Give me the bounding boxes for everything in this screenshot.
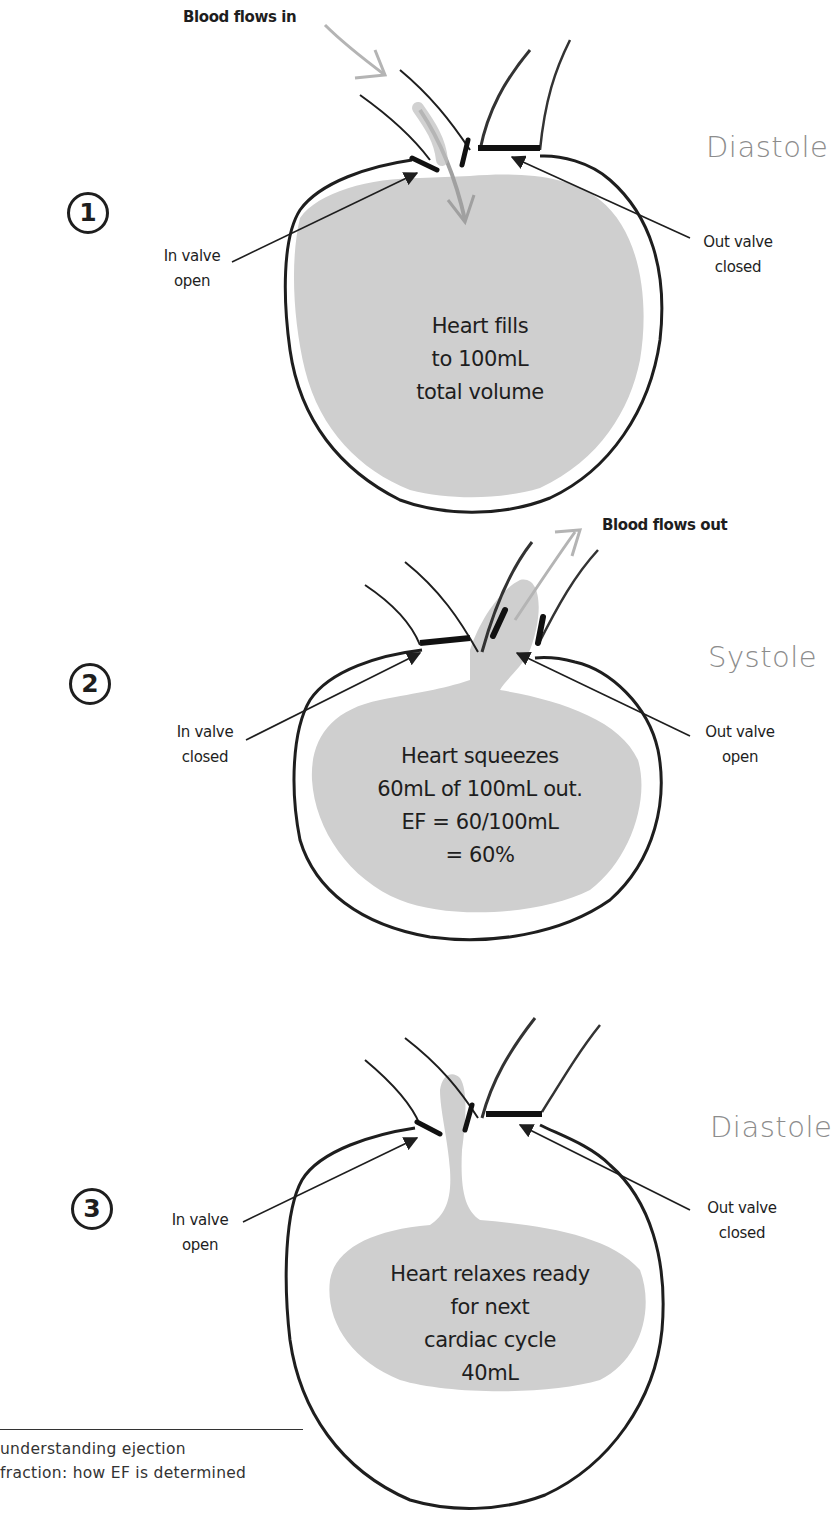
flow-out-label: Blood flows out [602, 516, 727, 534]
in-valve-label-3: In valve open [160, 1208, 240, 1258]
out-valve-label-3: Out valve closed [692, 1196, 792, 1246]
step-badge-2: 2 [69, 663, 111, 705]
out-valve-flap-left [465, 1105, 472, 1130]
out-valve-label-2: Out valve open [690, 720, 790, 770]
figure-caption: understanding ejection fraction: how EF … [0, 1437, 246, 1485]
phase-label-1: Diastole [706, 130, 828, 164]
in-valve-label-1: In valve open [152, 244, 232, 294]
in-valve-bar [420, 638, 470, 643]
in-valve-flap [412, 158, 437, 170]
flow-out-arrow-icon [515, 532, 575, 620]
phase-label-2: Systole [708, 640, 817, 674]
out-valve-label-1: Out valve closed [688, 230, 788, 280]
inner-text-2: Heart squeezes 60mL of 100mL out. EF = 6… [340, 740, 620, 872]
flow-in-label: Blood flows in [183, 8, 296, 26]
step-badge-1: 1 [67, 192, 109, 234]
panel-1-heart [232, 25, 690, 512]
out-valve-flap-left [462, 140, 468, 165]
in-valve-label-2: In valve closed [165, 720, 245, 770]
in-valve-flap [417, 1122, 440, 1134]
inner-text-3: Heart relaxes ready for next cardiac cyc… [350, 1258, 630, 1390]
panel-2-heart [246, 530, 690, 940]
step-badge-3: 3 [71, 1188, 113, 1230]
inner-text-1: Heart fills to 100mL total volume [380, 310, 580, 409]
phase-label-3: Diastole [710, 1110, 832, 1144]
caption-divider [0, 1429, 303, 1430]
